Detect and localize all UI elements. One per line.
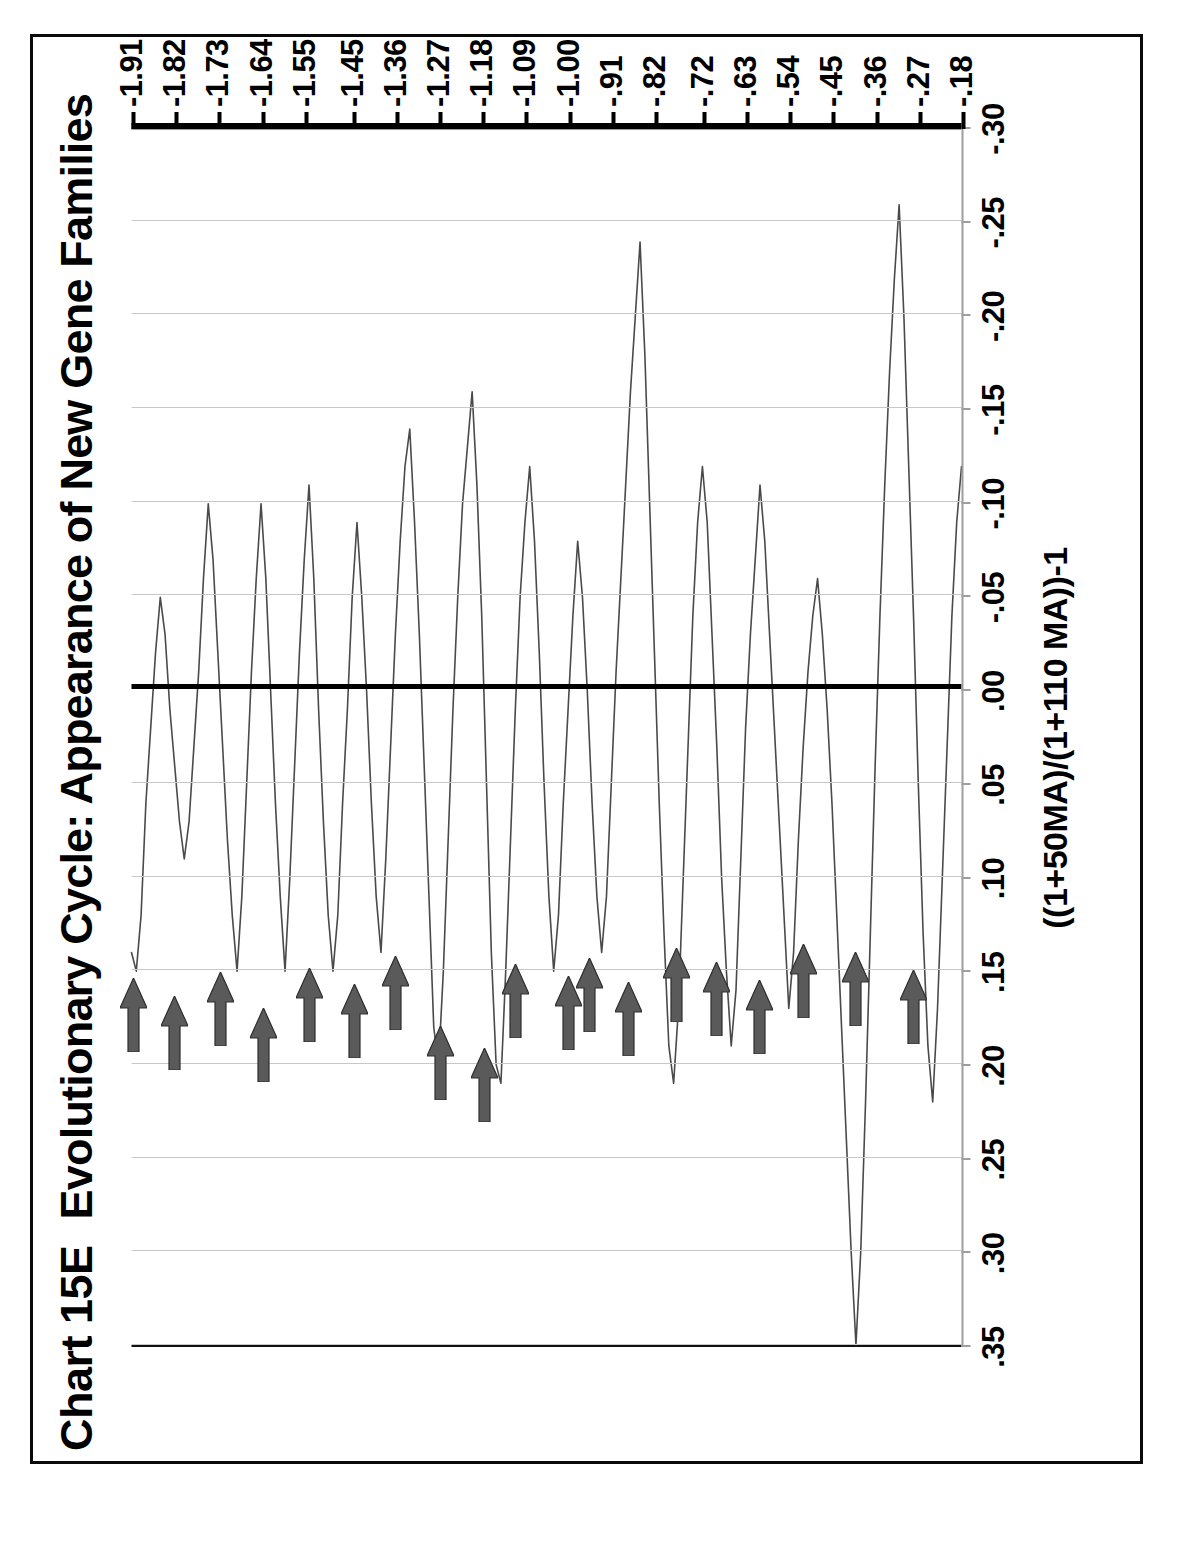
value-gridline [131, 501, 961, 502]
category-axis-tick [654, 112, 658, 129]
value-axis-tick-label: -.05 [975, 552, 1011, 642]
category-axis-tick-label: -1.45 [336, 0, 367, 107]
category-axis-tick [702, 112, 706, 129]
category-axis-tick-label: -.91 [595, 0, 626, 107]
value-axis-tick [961, 1064, 970, 1066]
category-axis-tick [875, 112, 879, 129]
category-axis-tick-label: -1.82 [159, 0, 190, 107]
peak-marker-arrow [789, 944, 816, 1018]
value-axis-tick [961, 970, 970, 972]
category-axis-tick-label: -.36 [859, 0, 890, 107]
value-gridline [131, 1250, 961, 1251]
category-axis-tick-label: -1.73 [202, 0, 233, 107]
category-axis-tick [131, 112, 135, 129]
value-axis-tick-label: .35 [975, 1302, 1011, 1392]
peak-marker-arrow [576, 958, 603, 1032]
category-axis-tick [961, 112, 965, 129]
value-gridline [131, 313, 961, 314]
category-axis-tick [438, 112, 442, 129]
value-axis-tick [961, 1345, 970, 1347]
value-axis-tick-label: .30 [975, 1208, 1011, 1298]
value-axis-tick [961, 689, 970, 691]
category-axis-tick [524, 112, 528, 129]
value-axis-tick [961, 408, 970, 410]
category-axis-tick [174, 112, 178, 129]
value-axis-tick-label: .05 [975, 740, 1011, 830]
value-axis-tick [961, 595, 970, 597]
peak-marker-arrow [295, 968, 322, 1042]
category-axis-tick [395, 112, 399, 129]
value-axis-tick-label: -.30 [975, 84, 1011, 174]
category-axis-tick [304, 112, 308, 129]
value-axis-tick-label: .20 [975, 1021, 1011, 1111]
category-axis-tick [481, 112, 485, 129]
value-axis-tick [961, 783, 970, 785]
category-axis-tick [918, 112, 922, 129]
value-gridline [131, 594, 961, 595]
value-gridline [131, 220, 961, 221]
value-axis-tick-label: -.15 [975, 365, 1011, 455]
category-axis-tick-label: -1.64 [245, 0, 276, 107]
value-axis-tick [961, 1251, 970, 1253]
category-axis-tick-label: -.54 [773, 0, 804, 107]
value-axis-tick [961, 314, 970, 316]
peak-marker-arrow [470, 1048, 497, 1122]
series-path-primary [131, 205, 961, 1345]
peak-marker-arrow [341, 984, 368, 1058]
value-gridline [131, 1157, 961, 1158]
chart-number-label: Chart 15E [50, 1245, 102, 1451]
category-axis-tick [611, 112, 615, 129]
category-axis-tick-label: -1.00 [552, 0, 583, 107]
value-axis-tick-label: -.10 [975, 459, 1011, 549]
value-gridline [131, 684, 961, 689]
value-gridline [131, 876, 961, 877]
category-axis-tick [352, 112, 356, 129]
category-axis-tick-label: -.18 [946, 0, 977, 107]
category-axis-tick-label: -1.55 [288, 0, 319, 107]
value-gridline [131, 782, 961, 783]
category-axis-tick-label: -1.18 [466, 0, 497, 107]
value-axis-tick [961, 221, 970, 223]
peak-marker-arrow [703, 962, 730, 1036]
value-axis-tick-label: -.20 [975, 271, 1011, 361]
value-gridline [131, 1344, 961, 1345]
value-axis-tick-label: .25 [975, 1115, 1011, 1205]
category-axis-tick-label: -.72 [686, 0, 717, 107]
peak-marker-arrow [161, 996, 188, 1070]
category-axis-tick [745, 112, 749, 129]
peak-marker-arrow [900, 970, 927, 1044]
category-axis-tick-label: -1.27 [423, 0, 454, 107]
peak-marker-arrow [614, 982, 641, 1056]
value-axis-title: ((1+50MA)/(1+110 MA))-1 [1035, 129, 1074, 1347]
category-axis-tick [217, 112, 221, 129]
category-axis-tick [261, 112, 265, 129]
value-axis-tick-label: .10 [975, 834, 1011, 924]
peak-marker-arrow [746, 980, 773, 1054]
series-line-chart [131, 130, 961, 1345]
value-axis-tick [961, 1158, 970, 1160]
value-axis-line [961, 129, 963, 1347]
value-axis-tick-label: .15 [975, 927, 1011, 1017]
value-gridline [131, 407, 961, 408]
peak-marker-arrow [120, 978, 147, 1052]
page-title: Evolutionary Cycle: Appearance of New Ge… [50, 94, 102, 1219]
category-axis-tick-label: -.45 [816, 0, 847, 107]
peak-marker-arrow [206, 972, 233, 1046]
chart-header: Chart 15E Evolutionary Cycle: Appearance… [43, 51, 109, 1451]
chart-page-frame: Chart 15E Evolutionary Cycle: Appearance… [30, 34, 1143, 1464]
peak-marker-arrow [381, 956, 408, 1030]
category-axis-tick-label: -1.09 [509, 0, 540, 107]
peak-marker-arrow [249, 1008, 276, 1082]
value-gridline [131, 969, 961, 970]
value-axis-tick [961, 502, 970, 504]
category-axis-tick [568, 112, 572, 129]
category-axis-tick-label: -.27 [902, 0, 933, 107]
category-axis-tick-label: -.63 [730, 0, 761, 107]
chart-canvas: Chart 15E Evolutionary Cycle: Appearance… [35, 39, 1144, 1465]
category-axis-tick-label: -.82 [638, 0, 669, 107]
rotation-wrapper: Chart 15E Evolutionary Cycle: Appearance… [33, 37, 1146, 1467]
category-axis-tick-label: -1.36 [379, 0, 410, 107]
peak-marker-arrow [662, 948, 689, 1022]
plot-area [131, 129, 961, 1347]
category-axis-line [131, 123, 961, 129]
